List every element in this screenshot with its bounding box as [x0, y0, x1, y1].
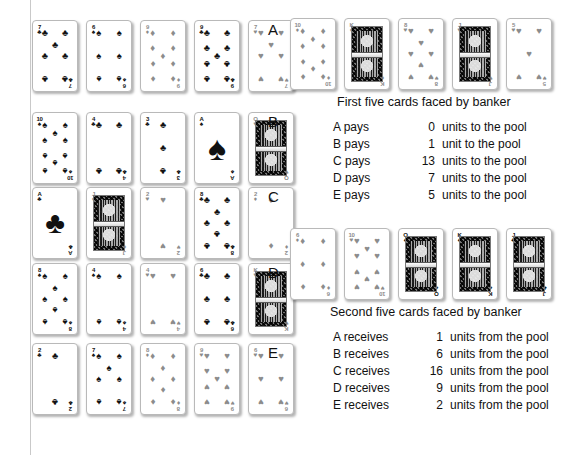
- card-pip-layout: ♣♣: [38, 352, 72, 406]
- card-pip: ♠: [42, 166, 47, 176]
- receives-player: E receives: [333, 398, 419, 412]
- card-pip: ♥: [204, 352, 210, 362]
- card-pip-layout: ♠♠♠♠: [92, 272, 126, 326]
- receives-amount: 6: [419, 347, 450, 361]
- card-pip-layout: ♥♥♥♥♥♥♥♥♥♥: [350, 237, 384, 291]
- card-pip: ♣: [214, 230, 220, 240]
- card-pip-layout: ♠♠♠♠♠♠♠♠: [38, 272, 72, 326]
- card-pip: ♣: [116, 121, 122, 131]
- pays-row: A pays0units to the pool: [333, 120, 527, 137]
- card-pip: ♦: [171, 374, 176, 384]
- card-pip: ♣: [62, 51, 68, 61]
- card-pip: ♠: [63, 121, 68, 131]
- card-pip: ♣: [42, 29, 48, 39]
- card-pip: ♦: [321, 259, 326, 269]
- row-label-b: B: [268, 113, 278, 130]
- card-pip: ♠: [96, 51, 101, 61]
- card-pip-layout: ♣♣♣♣: [92, 121, 126, 175]
- card-pip: ♣: [52, 352, 58, 362]
- card-pip: ♦: [161, 51, 166, 61]
- card-pip: ♠: [42, 151, 47, 161]
- card-pip: ♣: [214, 51, 220, 61]
- card-pip: ♦: [171, 44, 176, 54]
- receives-row: D receives9units from the pool: [333, 381, 549, 398]
- card-pip: ♦: [300, 237, 305, 247]
- card-pip: ♦: [150, 374, 155, 384]
- card-pip: ♦: [321, 282, 326, 292]
- card-pip: ♥: [224, 352, 230, 362]
- card-pip: ♠: [63, 136, 68, 146]
- pays-row: D pays7units to the pool: [333, 171, 527, 188]
- card-pip: ♥: [278, 29, 284, 39]
- card-pip: ♥: [428, 72, 434, 82]
- card-pip: ♦: [300, 57, 305, 67]
- receives-amount: 9: [419, 381, 450, 395]
- card-pip: ♦: [300, 259, 305, 269]
- player-card-e-1: 2♣2♣♣♣: [32, 343, 78, 415]
- card-pip-layout: ♠♠♠♠♠♠♠♠♠♠: [38, 121, 72, 175]
- card-pip: ♣: [224, 196, 230, 206]
- receives-units-text: units from the pool: [450, 398, 549, 412]
- card-pip: ♠: [117, 352, 122, 362]
- card-pip: ♦: [161, 386, 166, 396]
- card-pip: ♥: [258, 51, 264, 61]
- card-pip: ♠: [117, 374, 122, 384]
- receives-units-text: units from the pool: [450, 381, 549, 395]
- card-pip: ♣: [224, 74, 230, 84]
- receives-player: C receives: [333, 364, 419, 378]
- card-pip: ♣: [160, 143, 166, 153]
- card-pip: ♠: [63, 272, 68, 282]
- card-pip: ♠: [117, 272, 122, 282]
- card-pip-layout: ♥♥♥♥: [146, 272, 180, 326]
- player-card-c-2: J♦J♦: [86, 187, 132, 259]
- card-pip: ♦: [150, 44, 155, 54]
- banker-first-card-1: 10♦10♦♦♦♦♦♦♦♦♦♦♦: [290, 18, 336, 90]
- card-pip: ♠: [117, 51, 122, 61]
- card-pip: ♥: [258, 29, 264, 39]
- card-pip: ♥: [428, 27, 434, 37]
- player-card-b-1: 10♠10♠♠♠♠♠♠♠♠♠♠♠: [32, 112, 78, 184]
- card-pip: ♥: [258, 352, 264, 362]
- player-card-a-4: 9♣9♣♣♣♣♣♣♣♣♣♣: [194, 20, 240, 92]
- card-pip: ♠: [117, 74, 122, 84]
- card-pip: ♣: [224, 59, 230, 69]
- card-pip: ♦: [300, 42, 305, 52]
- card-pip: ♥: [526, 49, 532, 59]
- card-pip: ♦: [171, 352, 176, 362]
- pays-row: B pays1unit to the pool: [333, 137, 527, 154]
- card-pip: ♣: [204, 74, 210, 84]
- receives-units-text: units from the pool: [450, 330, 549, 344]
- card-pip: ♠: [52, 283, 57, 293]
- banker-first-card-4: J♥J♥: [452, 18, 498, 90]
- card-pip: ♠: [106, 363, 111, 373]
- card-pip-layout: ♣♣♣♣♣♣♣: [38, 29, 72, 83]
- card-pip-layout: ♥♥: [146, 196, 180, 250]
- court-card-art: [459, 236, 491, 292]
- card-pip: ♥: [418, 61, 424, 71]
- card-pip: ♠: [42, 121, 47, 131]
- card-pip: ♥: [374, 267, 380, 277]
- card-pip: ♣: [224, 241, 230, 251]
- card-pip-layout: ♦♦♦♦♦♦♦♦♦: [146, 29, 180, 83]
- pays-units-text: units to the pool: [442, 154, 527, 168]
- receives-player: D receives: [333, 381, 419, 395]
- card-pip: ♥: [224, 367, 230, 377]
- card-pip: ♥: [516, 27, 522, 37]
- card-pip: ♠: [96, 74, 101, 84]
- receives-row: E receives2units from the pool: [333, 398, 549, 415]
- card-pip: ♣: [224, 29, 230, 39]
- card-pip: ♣: [204, 317, 210, 327]
- card-pip: ♦: [171, 397, 176, 407]
- row-label-c: C: [268, 188, 279, 205]
- card-pip: ♣: [204, 29, 210, 39]
- card-pip: ♦: [321, 237, 326, 247]
- card-pip: ♣: [204, 44, 210, 54]
- card-pip: ♦: [300, 282, 305, 292]
- card-pip: ♠: [96, 29, 101, 39]
- card-pip: ♣: [224, 317, 230, 327]
- pays-amount: 5: [411, 188, 442, 202]
- card-pip: ♣: [96, 166, 102, 176]
- card-pip: ♠: [96, 272, 101, 282]
- court-card-art: [351, 26, 383, 82]
- card-pip: ♦: [300, 27, 305, 37]
